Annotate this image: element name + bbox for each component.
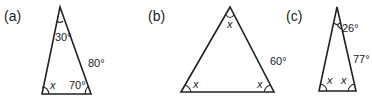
apex-angle-label-a: 30° — [55, 31, 72, 43]
right-angle-label-c: x — [340, 74, 347, 86]
left-angle-label-b: x — [192, 78, 199, 90]
right-side-label-a: 80° — [88, 57, 105, 69]
right-angle-label-b: x — [256, 78, 263, 90]
apex-angle-arc-a — [57, 21, 63, 23]
right-angle-arc-b — [264, 85, 270, 92]
triangles-diagram: (a) 30° x 70° 80° (b) x x x 60° (c) 26° … — [0, 0, 372, 101]
right-side-label-b: 60° — [270, 55, 287, 67]
left-angle-label-a: x — [49, 79, 56, 91]
figure-a: (a) 30° x 70° 80° — [4, 7, 105, 94]
left-angle-arc-b — [185, 85, 191, 92]
apex-angle-label-c: 26° — [342, 22, 359, 34]
right-angle-label-a: 70° — [69, 79, 86, 91]
panel-label-b: (b) — [148, 8, 165, 24]
apex-angle-label-b: x — [226, 18, 233, 30]
triangle-c — [319, 7, 356, 91]
panel-label-a: (a) — [4, 8, 21, 24]
apex-angle-arc-c — [334, 23, 340, 25]
panel-label-c: (c) — [286, 8, 302, 24]
left-angle-label-c: x — [326, 74, 333, 86]
figure-b: (b) x x x 60° — [148, 7, 287, 92]
right-side-label-c: 77° — [353, 53, 370, 65]
figure-c: (c) 26° x x 77° — [286, 7, 370, 91]
